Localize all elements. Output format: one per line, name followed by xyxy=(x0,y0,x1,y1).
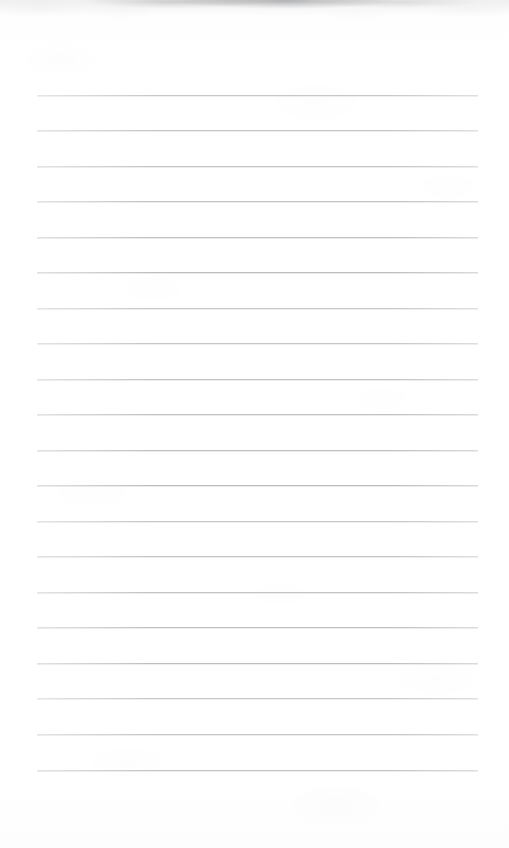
paper-sheet xyxy=(0,0,509,848)
scanned-page xyxy=(0,0,509,848)
